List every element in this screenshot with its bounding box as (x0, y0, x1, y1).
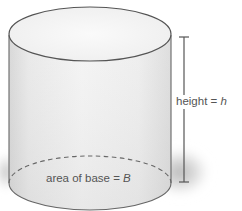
height-label: height = h (176, 95, 227, 109)
base-label-text: area of base = (46, 172, 123, 184)
base-variable: B (123, 172, 131, 184)
cylinder-top (9, 7, 171, 61)
height-label-text: height = (176, 95, 220, 107)
base-area-label: area of base = B (46, 173, 131, 185)
height-variable: h (220, 95, 226, 107)
